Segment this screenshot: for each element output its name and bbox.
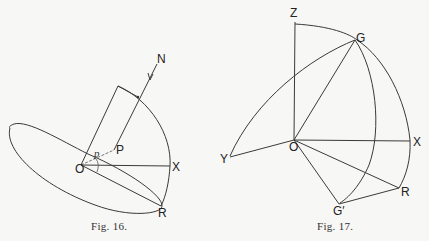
fig17-label-Gprime: G′ <box>333 204 345 218</box>
fig17-label-G: G <box>356 31 365 45</box>
fig16-label-P: P <box>116 143 124 157</box>
fig16-line-O-X <box>81 165 170 166</box>
fig16-label-N: N <box>157 52 166 66</box>
fig16-label-R: R <box>158 206 167 220</box>
fig16-label-O: O <box>75 162 84 176</box>
fig17-axis-Z <box>294 22 295 140</box>
fig16-label-p: p <box>93 147 100 159</box>
fig16-pierce-point <box>137 96 139 98</box>
fig17-line-O-X <box>294 140 410 141</box>
fig16-label-X: X <box>172 160 180 174</box>
fig17-line-O-Gprime <box>294 140 339 204</box>
fig17-label-R: R <box>401 185 410 199</box>
diagram-canvas: N P p O X R Fig. 16. <box>0 0 429 241</box>
fig17-label-Z: Z <box>290 6 297 20</box>
fig16-caption: Fig. 16. <box>91 220 127 232</box>
fig17-line-O-Y <box>230 140 294 157</box>
fig16-line-N-P <box>114 64 157 150</box>
diagram-page: N P p O X R Fig. 16. <box>0 0 429 241</box>
fig16-line-O-R <box>81 165 161 206</box>
fig17-label-O: O <box>289 140 298 154</box>
fig17-outer-arc <box>295 24 410 188</box>
fig17-arc-G-Y <box>230 40 355 156</box>
fig17-label-X: X <box>413 135 421 149</box>
fig17-label-Y: Y <box>220 152 228 166</box>
fig17-line-O-R <box>294 140 399 188</box>
figure-16: N P p O X R Fig. 16. <box>9 52 180 232</box>
fig17-arc-G-Gprime <box>340 40 376 203</box>
fig17-caption: Fig. 17. <box>317 220 353 232</box>
figure-17: Z G O X Y R G′ Fig. 17. <box>220 6 421 232</box>
fig16-line-O-top <box>81 86 118 165</box>
fig16-ellipse <box>9 123 162 213</box>
